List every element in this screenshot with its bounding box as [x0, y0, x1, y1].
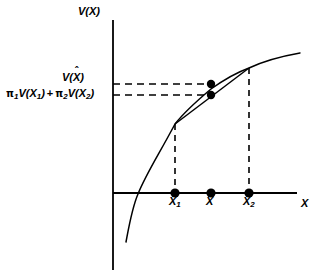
- tick-label-x2: X2: [243, 196, 255, 207]
- label-mixture-x2: X: [79, 87, 86, 99]
- label-mixture-pi1-sub: 1: [14, 92, 18, 101]
- label-v-xhat-variable: ˆX: [73, 72, 80, 83]
- label-mixture-expectation: π1V(X1)+π2V(X2): [6, 88, 94, 99]
- x-axis-label: X: [301, 198, 308, 209]
- tick-label-x1: X1: [169, 196, 181, 207]
- hat-accent-icon: ˆ: [75, 66, 78, 76]
- label-mixture-x1-sub: 1: [37, 92, 41, 101]
- label-mixture-x1: X: [29, 87, 36, 99]
- y-axis-label: V(X): [78, 6, 100, 17]
- label-v-xhat: V(ˆX): [62, 72, 84, 83]
- label-mixture-x2-sub: 2: [86, 92, 90, 101]
- label-mixture-plus: +: [45, 87, 55, 99]
- label-mixture-pi2-sub: 2: [63, 92, 67, 101]
- marker-curve-point-xhat: [207, 80, 215, 88]
- tick-label-xhat: ˆX: [206, 196, 213, 207]
- label-mixture-pi1: π: [6, 88, 14, 99]
- tick-label-x2-sub: 2: [250, 200, 254, 209]
- label-mixture-v1: V: [18, 87, 25, 99]
- y-axis-label-close: ): [96, 5, 100, 17]
- label-v-xhat-close: ): [80, 71, 84, 83]
- marker-chord-point-xhat: [207, 91, 215, 99]
- label-mixture-close2: ): [90, 87, 94, 99]
- tick-label-xhat-variable: ˆX: [206, 196, 213, 207]
- label-mixture-v2: V: [68, 87, 75, 99]
- value-function-figure: V(X) X V(ˆX) π1V(X1)+π2V(X2) X1 ˆX X2: [0, 0, 321, 276]
- tick-label-x1-sub: 1: [176, 200, 180, 209]
- figure-canvas: [0, 0, 321, 276]
- hat-accent-icon: ˆ: [208, 190, 211, 200]
